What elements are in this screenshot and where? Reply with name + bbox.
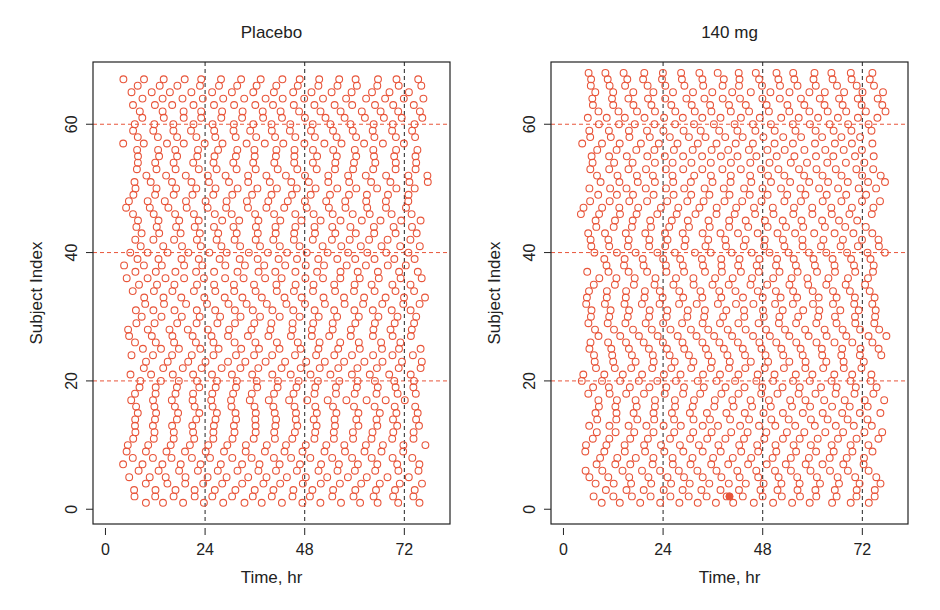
panel-title: Placebo bbox=[241, 23, 302, 42]
y-tick-label: 40 bbox=[63, 244, 80, 262]
x-tick-label: 48 bbox=[296, 541, 314, 558]
y-tick-label: 60 bbox=[521, 115, 538, 133]
x-axis-label: Time, hr bbox=[241, 568, 303, 587]
x-axis-label: Time, hr bbox=[699, 568, 761, 587]
figure: Placebo0244872Time, hr0204060Subject Ind… bbox=[0, 0, 940, 610]
y-tick-label: 20 bbox=[521, 372, 538, 390]
y-axis-label: Subject Index bbox=[485, 241, 504, 345]
y-axis-label: Subject Index bbox=[27, 241, 46, 345]
x-axis: 0244872Time, hr bbox=[101, 528, 413, 587]
x-tick-label: 48 bbox=[754, 541, 772, 558]
x-tick-label: 72 bbox=[853, 541, 871, 558]
y-tick-label: 0 bbox=[63, 505, 80, 514]
y-tick-label: 0 bbox=[521, 505, 538, 514]
panel-title: 140 mg bbox=[701, 23, 758, 42]
x-tick-label: 0 bbox=[101, 541, 110, 558]
y-tick-label: 40 bbox=[521, 244, 538, 262]
x-tick-label: 24 bbox=[196, 541, 214, 558]
y-tick-label: 20 bbox=[63, 372, 80, 390]
y-tick-label: 60 bbox=[63, 115, 80, 133]
x-tick-label: 0 bbox=[559, 541, 568, 558]
y-axis: 0204060Subject Index bbox=[27, 115, 93, 513]
data-points bbox=[120, 76, 432, 506]
highlighted-point bbox=[726, 493, 733, 500]
x-axis: 0244872Time, hr bbox=[559, 528, 871, 587]
x-tick-label: 72 bbox=[395, 541, 413, 558]
x-tick-label: 24 bbox=[654, 541, 672, 558]
placebo-panel: Placebo0244872Time, hr0204060Subject Ind… bbox=[27, 23, 450, 587]
140mg-panel: 140 mg0244872Time, hr0204060Subject Inde… bbox=[485, 23, 908, 587]
data-points bbox=[578, 70, 890, 507]
y-axis: 0204060Subject Index bbox=[485, 115, 551, 513]
